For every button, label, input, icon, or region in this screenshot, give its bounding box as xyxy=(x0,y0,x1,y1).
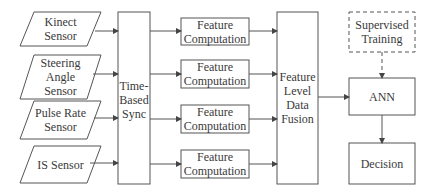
decision-label: Decision xyxy=(349,143,415,184)
sync-label: Time- Based Sync xyxy=(118,80,150,120)
sensor-label-kinect: Kinect Sensor xyxy=(27,12,94,46)
feature-label-4: Feature Computation xyxy=(181,150,249,178)
sensor-label-pulse: Pulse Rate Sensor xyxy=(24,101,97,139)
feature-label-3: Feature Computation xyxy=(181,105,249,133)
training-label: Supervised Training xyxy=(349,12,415,52)
feature-label-2: Feature Computation xyxy=(181,60,249,88)
fusion-label: Feature Level Data Fusion xyxy=(277,70,318,126)
sensor-label-steering: Steering Angle Sensor xyxy=(27,55,94,99)
ann-label: ANN xyxy=(349,78,415,115)
sensor-label-is: IS Sensor xyxy=(27,146,94,183)
feature-label-1: Feature Computation xyxy=(181,18,249,45)
